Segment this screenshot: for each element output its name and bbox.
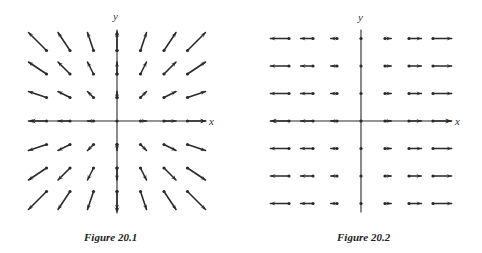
grid-point	[359, 174, 362, 177]
field-vector	[164, 192, 176, 210]
y-axis-label: y	[358, 12, 363, 23]
grid-point	[115, 143, 118, 146]
vector-field-plot	[241, 0, 482, 253]
field-vector	[29, 33, 47, 51]
grid-point	[115, 119, 118, 122]
field-vector	[164, 33, 176, 51]
grid-point	[359, 92, 362, 95]
field-vector	[188, 33, 206, 51]
y-axis-label: y	[113, 11, 118, 22]
figure-20-2: x y Figure 20.2	[241, 0, 482, 253]
vector-field-plot	[0, 0, 241, 253]
field-vector	[29, 168, 47, 180]
grid-point	[115, 190, 118, 193]
grid-point	[115, 72, 118, 75]
field-vector	[188, 192, 206, 210]
field-vector	[29, 62, 47, 74]
x-axis-label: x	[455, 116, 460, 127]
grid-point	[359, 202, 362, 205]
field-vector	[188, 168, 206, 180]
grid-point	[359, 37, 362, 40]
grid-point	[359, 119, 362, 122]
field-vector	[58, 192, 70, 210]
grid-point	[359, 64, 362, 67]
field-vector	[29, 192, 47, 210]
x-axis-label: x	[209, 116, 214, 127]
field-vector	[188, 62, 206, 74]
figure-20-1: x y Figure 20.1	[0, 0, 241, 253]
grid-point	[115, 166, 118, 169]
field-vector	[58, 33, 70, 51]
grid-point	[115, 96, 118, 99]
grid-point	[115, 49, 118, 52]
grid-point	[359, 147, 362, 150]
figure-caption: Figure 20.1	[84, 231, 137, 243]
figure-caption: Figure 20.2	[337, 231, 390, 243]
